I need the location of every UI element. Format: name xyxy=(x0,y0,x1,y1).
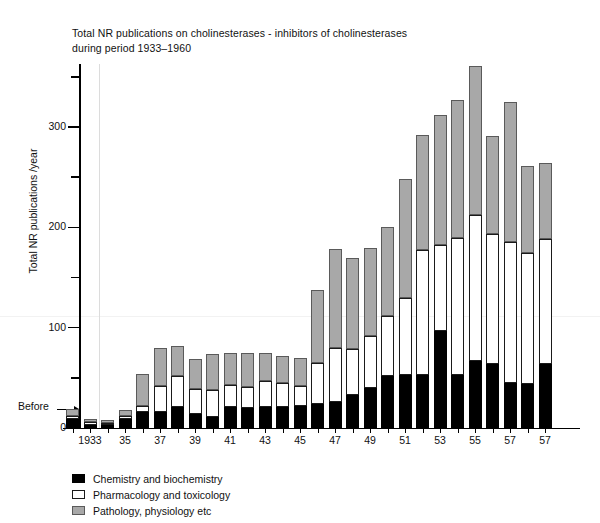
x-axis-tick-label: 41 xyxy=(224,434,236,446)
bar-segment xyxy=(66,419,79,428)
bar-segment xyxy=(311,290,324,363)
bar-segment xyxy=(294,386,307,406)
x-axis-tick-label: 49 xyxy=(364,434,376,446)
bar-segment xyxy=(346,395,359,428)
x-axis-tick xyxy=(108,428,109,433)
bar-1952 xyxy=(416,0,429,428)
x-axis-tick-label: 1933 xyxy=(78,434,101,446)
bar-segment xyxy=(521,253,534,383)
x-axis-tick xyxy=(493,428,494,433)
bar-segment xyxy=(259,353,272,381)
bar-segment xyxy=(294,358,307,386)
x-axis-tick xyxy=(370,428,371,433)
legend-swatch-pharmacology-icon xyxy=(72,490,85,499)
bar-segment xyxy=(399,179,412,297)
bar-1955 xyxy=(469,0,482,428)
bar-segment xyxy=(84,419,97,422)
bar-segment xyxy=(171,376,184,407)
x-axis-tick xyxy=(545,428,546,433)
x-axis-tick xyxy=(178,428,179,433)
bar-segment xyxy=(486,234,499,363)
bar-segment xyxy=(416,250,429,374)
bar-segment xyxy=(206,417,219,428)
bar-segment xyxy=(434,245,447,330)
bar-1944 xyxy=(276,0,289,428)
x-axis-tick xyxy=(195,428,196,433)
bar-segment xyxy=(346,258,359,348)
bar-segment xyxy=(154,386,167,412)
bar-1942 xyxy=(241,0,254,428)
bar-segment xyxy=(84,422,97,425)
x-axis-tick xyxy=(475,428,476,433)
chart-legend: Chemistry and biochemistry Pharmacology … xyxy=(72,471,230,519)
bar-segment xyxy=(119,416,132,419)
bar-segment xyxy=(346,349,359,395)
bars-layer xyxy=(0,0,600,428)
bar-segment xyxy=(381,227,394,315)
x-axis-tick xyxy=(160,428,161,433)
bar-segment xyxy=(381,376,394,428)
bar-segment xyxy=(189,414,202,428)
x-axis-tick-label: 35 xyxy=(119,434,131,446)
bar-segment xyxy=(224,353,237,385)
bar-segment xyxy=(311,404,324,428)
bar-segment xyxy=(206,390,219,417)
x-axis-tick xyxy=(283,428,284,433)
bar-segment xyxy=(329,402,342,428)
bar-segment xyxy=(416,375,429,428)
bar-segment xyxy=(521,384,534,428)
bar-segment xyxy=(66,416,79,419)
x-axis-tick xyxy=(300,428,301,433)
bar-1950 xyxy=(381,0,394,428)
bar-segment xyxy=(399,298,412,375)
legend-label-pathology: Pathology, physiology etc xyxy=(93,505,211,517)
bar-1934 xyxy=(101,0,114,428)
x-axis-tick xyxy=(318,428,319,433)
x-axis-tick xyxy=(248,428,249,433)
bar-segment xyxy=(241,387,254,408)
x-axis-tick xyxy=(440,428,441,433)
bar-segment xyxy=(329,348,342,402)
bar-segment xyxy=(259,407,272,428)
x-axis-tick-label: 37 xyxy=(154,434,166,446)
bar-1933 xyxy=(84,0,97,428)
bar-segment xyxy=(136,406,149,412)
x-axis-tick xyxy=(125,428,126,433)
x-axis-tick-label: 47 xyxy=(329,434,341,446)
bar-1937 xyxy=(154,0,167,428)
legend-label-chemistry: Chemistry and biochemistry xyxy=(93,473,223,485)
bar-1935 xyxy=(119,0,132,428)
bar-1941 xyxy=(224,0,237,428)
bar-segment xyxy=(66,409,79,416)
bar-segment xyxy=(381,316,394,376)
bar-segment xyxy=(521,166,534,253)
bar-1945 xyxy=(294,0,307,428)
bar-segment xyxy=(311,363,324,404)
bar-segment xyxy=(469,361,482,428)
bar-before xyxy=(66,0,79,428)
bar-segment xyxy=(276,407,289,428)
bar-segment xyxy=(189,359,202,389)
bar-segment xyxy=(171,407,184,428)
bar-segment xyxy=(276,383,289,407)
x-axis-tick xyxy=(353,428,354,433)
bar-segment xyxy=(486,364,499,428)
bar-1948 xyxy=(346,0,359,428)
x-axis-tick-label: 57 xyxy=(504,434,516,446)
x-axis-tick xyxy=(143,428,144,433)
x-axis-tick xyxy=(458,428,459,433)
bar-segment xyxy=(364,336,377,388)
bar-segment xyxy=(241,353,254,387)
legend-swatch-chemistry-icon xyxy=(72,474,85,483)
legend-label-pharmacology: Pharmacology and toxicology xyxy=(93,489,230,501)
x-axis-tick xyxy=(90,428,91,433)
bar-1959 xyxy=(539,0,552,428)
legend-item-chemistry: Chemistry and biochemistry xyxy=(72,471,230,486)
bar-segment xyxy=(329,249,342,347)
bar-segment xyxy=(504,383,517,428)
x-axis-tick xyxy=(213,428,214,433)
x-axis-tick xyxy=(510,428,511,433)
bar-1949 xyxy=(364,0,377,428)
x-axis-tick xyxy=(265,428,266,433)
bar-segment xyxy=(504,102,517,242)
